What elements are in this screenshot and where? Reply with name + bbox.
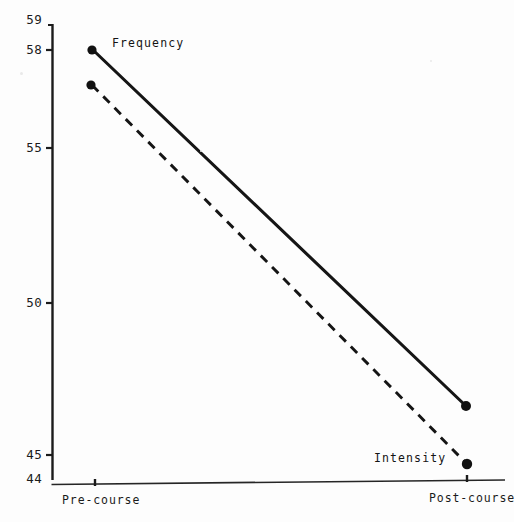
x-tick-label-post-course: Post-course bbox=[429, 491, 515, 505]
series-line-frequency bbox=[93, 50, 466, 406]
series-markers-intensity bbox=[86, 80, 472, 469]
x-axis-line bbox=[52, 480, 506, 485]
y-tick-label-55: 55 bbox=[8, 140, 42, 155]
y-tick-label-45: 45 bbox=[8, 447, 42, 462]
y-tick-label-44: 44 bbox=[8, 471, 42, 486]
series-annotation-frequency: Frequency bbox=[112, 36, 184, 50]
y-tick-label-58: 58 bbox=[8, 42, 42, 57]
series-line-intensity bbox=[92, 85, 466, 463]
series-annotation-intensity: Intensity bbox=[374, 451, 446, 465]
x-tick-label-pre-course: Pre-course bbox=[62, 493, 140, 507]
y-tick-label-50: 50 bbox=[8, 295, 42, 310]
y-tick-label-59: 59 bbox=[8, 12, 42, 27]
